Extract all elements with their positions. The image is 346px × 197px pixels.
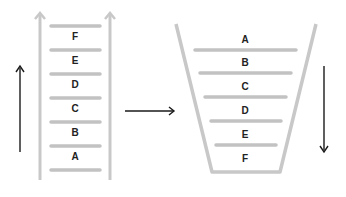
right-arrow-icon (125, 107, 174, 115)
stack-to-funnel-diagram: F E D C B A A B C D E F (0, 0, 346, 197)
funnel-label-a: A (241, 34, 248, 45)
funnel-label-f: F (242, 153, 248, 164)
up-arrow-icon (16, 66, 24, 152)
funnel-label-b: B (241, 57, 248, 68)
ladder-rungs (51, 26, 100, 170)
funnel-label-e: E (242, 129, 249, 140)
ladder-label-e: E (72, 55, 79, 66)
ladder-label-f: F (72, 31, 78, 42)
ladder-label-a: A (71, 151, 78, 162)
funnel: A B C D E F (176, 24, 316, 172)
ladder-right-rail (105, 13, 115, 180)
funnel-label-d: D (241, 105, 248, 116)
down-arrow-icon (320, 66, 328, 152)
ladder-left-rail (35, 13, 45, 180)
funnel-label-c: C (241, 81, 248, 92)
ladder-label-b: B (71, 127, 78, 138)
ladder-label-d: D (71, 79, 78, 90)
ladder-label-c: C (71, 103, 78, 114)
ladder: F E D C B A (35, 13, 115, 180)
